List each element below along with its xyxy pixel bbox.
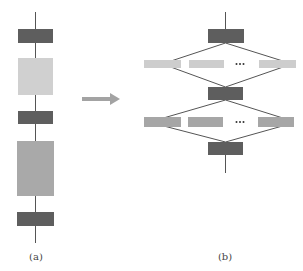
transform-arrow-icon (82, 93, 120, 105)
light-block (18, 58, 53, 95)
bottom-dark-block (208, 142, 243, 155)
dark-block-2 (18, 111, 53, 124)
branch-1-n (259, 60, 296, 68)
branch-2-2 (188, 117, 223, 127)
ellipsis-row-2-icon (236, 121, 245, 123)
medium-block (17, 141, 54, 196)
diagram-canvas (0, 0, 303, 271)
branch-row-2 (144, 117, 294, 127)
branch-2-n (258, 117, 294, 127)
panel-a-label: (a) (16, 251, 56, 262)
ellipsis-row-1-icon (236, 63, 245, 65)
middle-dark-block (208, 87, 243, 100)
panel-b-label: (b) (205, 251, 245, 262)
panel-b (144, 12, 296, 173)
top-dark-block (208, 29, 244, 43)
branch-2-1 (144, 117, 181, 127)
branch-1-1 (144, 60, 181, 68)
panel-a (17, 12, 54, 243)
dark-block-3 (17, 212, 54, 226)
branch-1-2 (189, 60, 224, 68)
dark-block-1 (18, 29, 53, 43)
branch-row-1 (144, 60, 296, 68)
